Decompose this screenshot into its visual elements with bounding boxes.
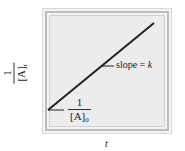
y-axis-label: 1 [A]t (8, 48, 22, 98)
y-label-fraction: 1 [A]t (2, 62, 29, 83)
intercept-den-main: [A] (70, 110, 85, 122)
y-label-denominator: [A]t (15, 62, 29, 83)
intercept-denominator: [A]0 (68, 110, 91, 124)
intercept-numerator: 1 (75, 97, 85, 109)
slope-prefix: slope = (116, 59, 148, 70)
slope-annotation: slope = k (116, 59, 152, 70)
intercept-den-sub: 0 (85, 116, 89, 124)
slope-variable: k (148, 59, 152, 70)
x-axis-label: t (105, 138, 108, 149)
intercept-annotation: 1 [A]0 (68, 96, 91, 124)
y-label-numerator: 1 (2, 68, 14, 78)
y-label-den-main: [A] (15, 66, 27, 81)
y-label-den-sub: t (21, 64, 29, 66)
intercept-fraction: 1 [A]0 (68, 97, 91, 124)
